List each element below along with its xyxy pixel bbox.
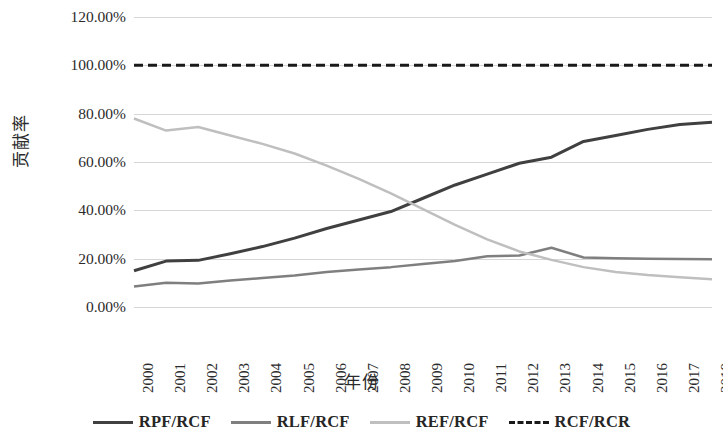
legend-item-rcf-rcr[interactable]: RCF/RCR bbox=[509, 412, 631, 432]
y-axis-tick-label: 80.00% bbox=[26, 105, 126, 123]
y-axis-tick-labels: 120.00%100.00%80.00%60.00%40.00%20.00%0.… bbox=[26, 0, 126, 320]
legend-swatch-icon bbox=[370, 421, 410, 424]
y-axis-tick-label: 20.00% bbox=[26, 250, 126, 268]
legend-label: RCF/RCR bbox=[555, 412, 631, 432]
y-axis-tick-label: 60.00% bbox=[26, 153, 126, 171]
legend-item-ref-rcf[interactable]: REF/RCF bbox=[370, 412, 489, 432]
chart-legend: RPF/RCFRLF/RCFREF/RCFRCF/RCR bbox=[0, 412, 723, 432]
plot-area bbox=[134, 17, 712, 307]
series-lines bbox=[134, 17, 712, 307]
legend-item-rpf-rcf[interactable]: RPF/RCF bbox=[93, 412, 211, 432]
series-line-rpf-rcf bbox=[134, 122, 712, 271]
y-axis-tick-label: 120.00% bbox=[26, 8, 126, 26]
x-axis-tick-labels: 2000200120022003200420052006200720082009… bbox=[134, 307, 712, 367]
legend-label: REF/RCF bbox=[416, 412, 489, 432]
legend-item-rlf-rcf[interactable]: RLF/RCF bbox=[231, 412, 350, 432]
x-axis-title: 年份 bbox=[0, 368, 723, 393]
y-axis-tick-label: 100.00% bbox=[26, 56, 126, 74]
legend-label: RPF/RCF bbox=[139, 412, 211, 432]
series-line-rlf-rcf bbox=[134, 248, 712, 287]
legend-swatch-icon bbox=[93, 421, 133, 424]
legend-swatch-icon bbox=[509, 421, 549, 424]
legend-label: RLF/RCF bbox=[277, 412, 350, 432]
chart-container: 贡献率 120.00%100.00%80.00%60.00%40.00%20.0… bbox=[0, 0, 723, 443]
legend-swatch-icon bbox=[231, 421, 271, 424]
y-axis-tick-label: 0.00% bbox=[26, 298, 126, 316]
y-axis-tick-label: 40.00% bbox=[26, 201, 126, 219]
